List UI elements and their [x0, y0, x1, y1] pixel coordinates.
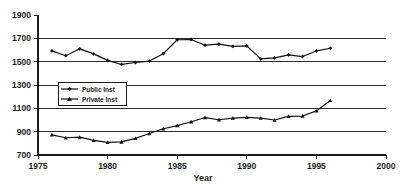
x-axis-title: Year	[193, 173, 213, 183]
data-point-marker	[64, 54, 68, 58]
data-point-marker	[78, 47, 82, 51]
x-tick-label: 1995	[307, 161, 326, 171]
x-tick-label: 2000	[377, 161, 396, 171]
legend-label: Public Inst	[82, 86, 116, 93]
data-point-marker	[134, 61, 138, 65]
x-tick-label: 1975	[29, 161, 48, 171]
chart-legend: Public InstPrivate Inst	[58, 82, 126, 105]
data-point-marker	[328, 46, 332, 50]
x-tick-label: 1980	[98, 161, 117, 171]
data-point-marker	[92, 52, 96, 56]
y-tick-label: 1900	[12, 10, 31, 20]
x-axis-tick-labels: 197519801985199019952000	[29, 161, 396, 171]
y-tick-label: 1300	[12, 80, 31, 90]
data-point-marker	[50, 49, 54, 53]
x-tick-label: 1985	[168, 161, 187, 171]
data-point-marker	[231, 44, 235, 48]
y-tick-label: 900	[17, 127, 31, 137]
data-point-marker	[287, 53, 291, 57]
y-tick-label: 1100	[13, 103, 32, 113]
chart-canvas: 70090011001300150017001900 1975198019851…	[0, 0, 407, 193]
x-tick-label: 1990	[237, 161, 256, 171]
data-point-marker	[301, 55, 305, 59]
line-chart: 70090011001300150017001900 1975198019851…	[0, 0, 407, 193]
data-point-marker	[315, 49, 319, 53]
y-axis-tick-labels: 70090011001300150017001900	[12, 10, 31, 160]
y-tick-label: 1500	[12, 57, 31, 67]
data-point-marker	[273, 56, 277, 60]
y-tick-label: 1700	[12, 33, 31, 43]
legend-label: Private Inst	[82, 96, 118, 103]
data-point-marker	[120, 63, 124, 67]
y-tick-label: 700	[17, 150, 31, 160]
data-point-marker	[203, 43, 207, 47]
data-point-marker	[217, 42, 221, 46]
data-point-marker	[328, 98, 332, 102]
